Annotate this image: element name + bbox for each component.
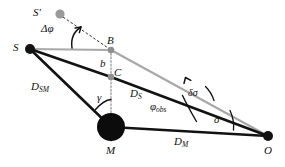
point-s-marker <box>25 44 35 54</box>
point-b-marker <box>108 47 115 54</box>
distance-label-d-m-sub: M <box>182 140 188 149</box>
point-label-c: C <box>114 67 121 78</box>
distance-label-d-sm: DSM <box>31 81 49 92</box>
distance-label-d-sm-base: D <box>31 80 39 92</box>
arc-sigma <box>230 111 234 131</box>
angle-label-delta-phi: Δφ <box>41 23 54 34</box>
angle-label-gamma: γ <box>97 92 101 103</box>
distance-label-d-s-sub: S <box>138 92 142 101</box>
arc-delta-sigma <box>206 87 215 101</box>
lensing-diagram: S′ S B C M O DSM DS DM b Δφ γ φobs δσ σ <box>0 0 285 167</box>
point-label-o: O <box>264 145 272 156</box>
distance-label-b-impact: b <box>100 58 106 69</box>
segment-s-to-c <box>30 49 111 77</box>
point-label-b: B <box>107 35 114 46</box>
angle-label-phi-obs: φobs <box>150 101 167 112</box>
point-label-s-prime: S′ <box>33 7 41 18</box>
point-s-prime-marker <box>55 9 64 18</box>
distance-label-d-m: DM <box>174 136 188 147</box>
point-o-marker <box>263 131 273 141</box>
distance-label-d-sm-sub: SM <box>39 85 49 94</box>
angle-label-sigma: σ <box>214 114 219 125</box>
point-m-marker <box>97 113 125 141</box>
point-marker-group <box>25 9 273 141</box>
distance-label-d-s: DS <box>130 88 142 99</box>
angle-label-delta-sigma: δσ <box>188 88 198 98</box>
segment-sprime-to-b <box>63 17 111 50</box>
angle-label-phi-obs-sub: obs <box>156 105 166 114</box>
point-label-m: M <box>106 145 115 156</box>
distance-label-d-m-base: D <box>174 135 182 147</box>
ray-group <box>30 17 268 141</box>
segment-c-to-o <box>111 77 268 136</box>
segment-s-to-b <box>30 49 111 50</box>
distance-label-d-s-base: D <box>130 87 138 99</box>
point-label-s: S <box>13 42 19 53</box>
arrowhead-delta-sigma <box>184 78 191 84</box>
